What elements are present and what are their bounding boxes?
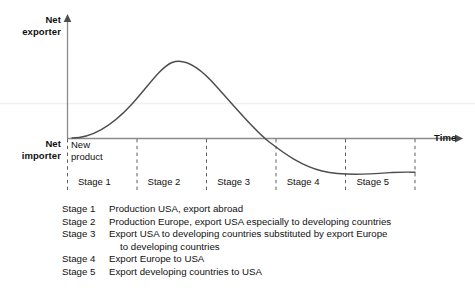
y-axis-bottom-label-line1: Net xyxy=(0,138,61,150)
legend-key-stage-2: Stage 2 xyxy=(62,216,106,229)
new-product-annotation-line1: New xyxy=(71,139,103,151)
legend-desc-stage-3: Export USA to developing countries subst… xyxy=(106,228,462,241)
legend-desc-stage-3-continued: to developing countries xyxy=(106,241,462,254)
trade-balance-curve xyxy=(72,61,415,174)
y-axis-bottom-label-line2: importer xyxy=(0,150,61,162)
stage-legend: Stage 1 Production USA, export abroad St… xyxy=(62,203,462,279)
legend-desc-stage-4: Export Europe to USA xyxy=(106,253,462,266)
legend-row-stage-5: Stage 5 Export developing countries to U… xyxy=(62,266,462,279)
stage-band-2: Stage 2 xyxy=(137,174,207,190)
legend-desc-stage-1: Production USA, export abroad xyxy=(106,203,462,216)
legend-desc-stage-5: Export developing countries to USA xyxy=(106,266,462,279)
y-axis-top-label: Net exporter xyxy=(0,14,61,37)
y-axis-top-label-line1: Net xyxy=(0,14,61,26)
stage-band-3: Stage 3 xyxy=(206,174,276,190)
y-axis-top-label-line2: exporter xyxy=(0,26,61,38)
legend-key-stage-5: Stage 5 xyxy=(62,266,106,279)
stage-band-5: Stage 5 xyxy=(345,174,415,190)
product-life-cycle-figure: Net exporter Net importer Time New produ… xyxy=(0,0,475,294)
trade-cycle-chart xyxy=(0,0,475,200)
legend-key-stage-1: Stage 1 xyxy=(62,203,106,216)
legend-row-stage-3-continued: to developing countries xyxy=(62,241,462,254)
y-axis-bottom-label: Net importer xyxy=(0,138,61,161)
new-product-annotation-line2: product xyxy=(71,151,103,163)
legend-key-stage-4: Stage 4 xyxy=(62,253,106,266)
stage-band-1: Stage 1 xyxy=(67,174,137,190)
x-axis-label: Time xyxy=(434,132,456,144)
legend-key-stage-3: Stage 3 xyxy=(62,228,106,241)
legend-row-stage-3: Stage 3 Export USA to developing countri… xyxy=(62,228,462,241)
legend-row-stage-1: Stage 1 Production USA, export abroad xyxy=(62,203,462,216)
stage-band-4: Stage 4 xyxy=(276,174,346,190)
new-product-annotation: New product xyxy=(71,139,103,162)
legend-row-stage-2: Stage 2 Production Europe, export USA es… xyxy=(62,216,462,229)
y-axis-arrowhead xyxy=(64,14,72,22)
legend-desc-stage-2: Production Europe, export USA especially… xyxy=(106,216,462,229)
stage-band-row: Stage 1 Stage 2 Stage 3 Stage 4 Stage 5 xyxy=(67,174,415,190)
legend-row-stage-4: Stage 4 Export Europe to USA xyxy=(62,253,462,266)
